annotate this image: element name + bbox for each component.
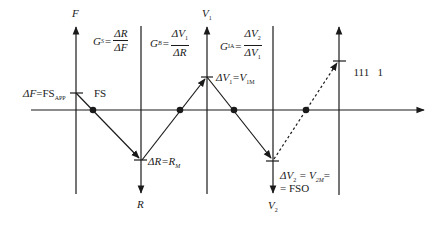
axis-label-text: R xyxy=(137,198,144,210)
equals-sign: = xyxy=(163,37,169,49)
label-force-fullscale: ΔF=FSAPP xyxy=(23,88,66,104)
annotation-lhs: ΔV xyxy=(216,71,229,83)
gain-sub: S xyxy=(101,38,104,44)
fs-text: FS xyxy=(94,87,106,99)
annotation-sub: APP xyxy=(55,95,66,101)
numerator-sub: 1 xyxy=(185,35,188,41)
annotation-lhs: ΔF xyxy=(23,87,36,99)
label-fso: = FSO xyxy=(280,183,309,194)
fraction-denominator: ΔV1 xyxy=(244,46,262,63)
gain-name: G xyxy=(150,37,158,49)
label-digital-output: 111 1 xyxy=(348,56,383,78)
gain-bridge: GB = ΔV1 ΔR xyxy=(150,28,189,58)
transfer-diagram xyxy=(0,0,429,234)
path-amplifier xyxy=(207,77,271,158)
axis-label-text: V xyxy=(268,199,275,211)
fraction-numerator: ΔV2 xyxy=(244,28,262,46)
axis-label-force: F xyxy=(72,8,79,19)
annotation-eq: = V xyxy=(296,169,316,181)
fraction-denominator: ΔF xyxy=(113,41,128,53)
label-v1-max: ΔV1=V1M xyxy=(216,72,255,88)
annotation-eq: =R xyxy=(161,155,175,167)
gain-fraction: ΔV2 ΔV1 xyxy=(244,28,262,63)
fraction-numerator: ΔV1 xyxy=(171,28,189,46)
gain-name: G xyxy=(220,40,228,52)
gain-fraction: ΔV1 ΔR xyxy=(171,28,189,58)
annotation-lhs: ΔR xyxy=(148,155,161,167)
annotation-eq: =V xyxy=(232,71,246,83)
gain-sensor: GS = ΔR ΔF xyxy=(93,28,128,53)
path-bridge xyxy=(142,79,205,160)
axis-label-text: V xyxy=(202,7,209,19)
denominator-text: ΔV xyxy=(245,46,258,58)
fso-text: = FSO xyxy=(280,182,309,194)
fraction-numerator: ΔR xyxy=(113,28,128,41)
axis-label-sub: 1 xyxy=(209,15,212,21)
axis-label-text: F xyxy=(72,7,79,19)
equals-sign: = xyxy=(235,40,241,52)
intersection-dot xyxy=(303,107,310,114)
numerator-text: ΔV xyxy=(245,27,258,39)
intersection-dot xyxy=(177,107,184,114)
fraction-denominator: ΔR xyxy=(172,46,187,58)
annotation-sub: 1M xyxy=(246,79,254,85)
label-fs: FS xyxy=(94,88,106,99)
gain-name: G xyxy=(93,35,101,47)
numerator-sub: 2 xyxy=(258,35,261,41)
numerator-text: ΔV xyxy=(172,27,185,39)
annotation-sub: 2M xyxy=(316,177,324,183)
gain-sub: B xyxy=(158,40,162,46)
axis-label-resistance: R xyxy=(137,199,144,210)
label-resistance-max: ΔR=RM xyxy=(148,156,180,172)
gain-amplifier: GIA = ΔV2 ΔV1 xyxy=(220,28,262,63)
annotation-eq: =FS xyxy=(36,87,54,99)
denominator-sub: 1 xyxy=(258,54,261,60)
gain-sub: IA xyxy=(228,43,234,49)
annotation-sub: M xyxy=(175,163,180,169)
axis-label-v1: V1 xyxy=(202,8,212,24)
path-sensor xyxy=(76,93,139,158)
annotation-lhs: ΔV xyxy=(280,169,293,181)
intersection-dot xyxy=(231,107,238,114)
gain-fraction: ΔR ΔF xyxy=(113,28,128,53)
digital-output-text: 111 1 xyxy=(354,66,383,78)
intersection-dot xyxy=(90,107,97,114)
equals-sign: = xyxy=(105,35,111,47)
axis-label-v2: V2 xyxy=(268,200,278,216)
annotation-tail: = xyxy=(324,169,330,181)
axis-label-sub: 2 xyxy=(275,207,278,213)
